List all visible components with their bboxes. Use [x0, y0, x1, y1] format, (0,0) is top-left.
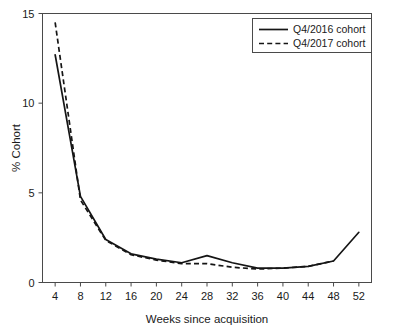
x-tick-label: 48	[327, 290, 339, 302]
x-tick-label: 44	[302, 290, 314, 302]
x-tick-label: 16	[125, 290, 137, 302]
x-tick-label: 52	[353, 290, 365, 302]
y-tick-label: 5	[28, 187, 34, 199]
x-tick-label: 24	[176, 290, 188, 302]
y-tick-label: 0	[28, 277, 34, 289]
legend: Q4/2016 cohort Q4/2017 cohort	[253, 19, 372, 53]
y-tick-label: 15	[22, 8, 34, 20]
chart-figure: 051015 481216202428323640444852 Weeks si…	[0, 0, 394, 330]
x-tick-label: 32	[226, 290, 238, 302]
x-tick-label: 36	[251, 290, 263, 302]
x-tick-label: 8	[77, 290, 83, 302]
x-tick-label: 28	[201, 290, 213, 302]
legend-label-q4-2017: Q4/2017 cohort	[293, 37, 365, 49]
x-tick-label: 12	[100, 290, 112, 302]
legend-label-q4-2016: Q4/2016 cohort	[293, 23, 365, 35]
x-axis-title: Weeks since acquisition	[146, 313, 269, 325]
line-chart: 051015 481216202428323640444852 Weeks si…	[0, 0, 394, 330]
x-tick-label: 20	[150, 290, 162, 302]
y-axis-title: % Cohort	[10, 123, 22, 172]
x-tick-label: 4	[52, 290, 58, 302]
x-tick-label: 40	[277, 290, 289, 302]
y-tick-label: 10	[22, 97, 34, 109]
